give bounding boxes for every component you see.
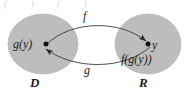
range-set-label: R [139,76,148,89]
domain-point-dot [44,42,49,47]
g-arrow-label: g [84,64,90,76]
range-point-dot [146,42,151,47]
range-composite-label: f(g(y)) [121,53,152,65]
range-point-label: y [152,39,157,51]
domain-set-label: D [30,76,39,89]
domain-point-label: g(y) [13,38,32,50]
f-arrow-label: f [83,10,86,22]
inverse-function-diagram: ( ) ( ) g(y) y f(g(y)) f g D R [0,0,185,98]
